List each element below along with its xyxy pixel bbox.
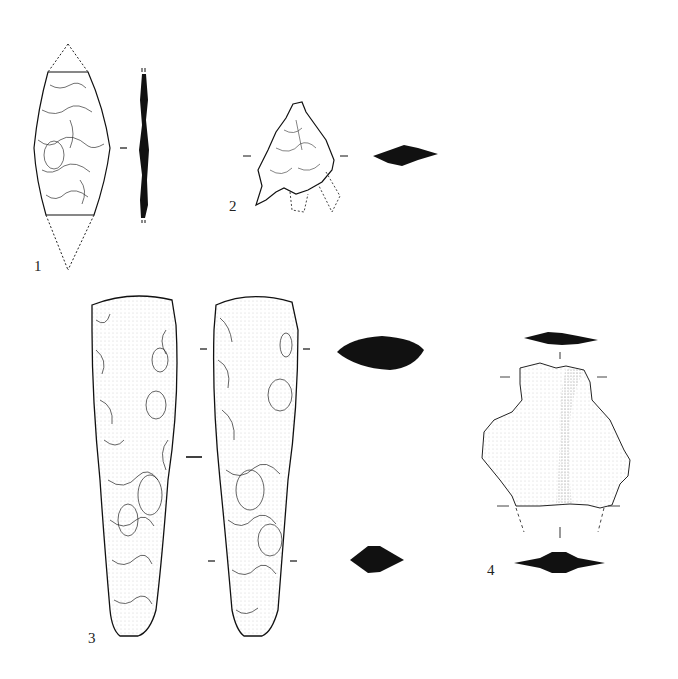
plate-drawing xyxy=(0,0,678,679)
figure-label-1: 1 xyxy=(34,258,42,275)
figure-3 xyxy=(92,296,424,636)
figure-4 xyxy=(482,332,630,573)
artifact-plate: 1 2 3 4 xyxy=(0,0,678,679)
figure-2 xyxy=(243,102,438,212)
figure-label-2: 2 xyxy=(229,198,237,215)
figure-label-4: 4 xyxy=(487,562,495,579)
figure-1 xyxy=(34,44,149,270)
figure-label-3: 3 xyxy=(88,630,96,647)
